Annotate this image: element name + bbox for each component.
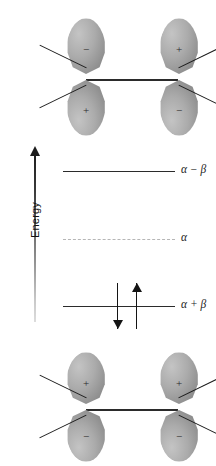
orbital-lobe-bottom: + bbox=[66, 80, 106, 136]
orbital-lobe-bottom: − bbox=[66, 410, 106, 462]
electron-arrowhead-up-icon bbox=[132, 283, 142, 292]
orbital-lobe-bottom: − bbox=[159, 80, 199, 136]
electron-spin-up-arrow-icon bbox=[131, 283, 142, 329]
lobe-sign-bottom: − bbox=[66, 431, 106, 442]
energy-level-label-nonbonding: α bbox=[181, 231, 187, 243]
lobe-sign-top: + bbox=[159, 44, 199, 55]
antibonding-orbital-left: − + bbox=[55, 18, 117, 136]
antibonding-orbital-diagram: − + + − bbox=[0, 18, 216, 140]
electron-arrowhead-down-icon bbox=[113, 320, 123, 329]
electron-spin-down-arrow-icon bbox=[112, 283, 123, 329]
energy-axis-label: Energy bbox=[29, 188, 41, 252]
lobe-sign-top: + bbox=[159, 378, 199, 389]
energy-level-label-antibonding: α − β bbox=[181, 163, 206, 175]
lobe-sign-bottom: + bbox=[66, 105, 106, 116]
energy-level-label-bonding: α + β bbox=[181, 298, 206, 310]
orbital-lobe-top: − bbox=[66, 18, 106, 74]
energy-axis: Energy bbox=[29, 146, 43, 322]
lobe-sign-top: + bbox=[66, 378, 106, 389]
orbital-lobe-top: + bbox=[159, 18, 199, 74]
antibonding-orbital-right: + − bbox=[148, 18, 210, 136]
mo-diagram-figure: − + + − Energy α − β α bbox=[0, 0, 216, 466]
orbital-lobe-bottom: − bbox=[159, 410, 199, 462]
bonding-orbital-right: + − bbox=[148, 352, 210, 462]
lobe-sign-bottom: − bbox=[159, 105, 199, 116]
energy-level-nonbonding: α bbox=[63, 239, 175, 240]
energy-level-antibonding: α − β bbox=[63, 171, 175, 172]
bonding-orbital-left: + − bbox=[55, 352, 117, 462]
bonding-orbital-diagram: + − + − bbox=[0, 352, 216, 466]
lobe-sign-top: − bbox=[66, 44, 106, 55]
lobe-sign-bottom: − bbox=[159, 431, 199, 442]
